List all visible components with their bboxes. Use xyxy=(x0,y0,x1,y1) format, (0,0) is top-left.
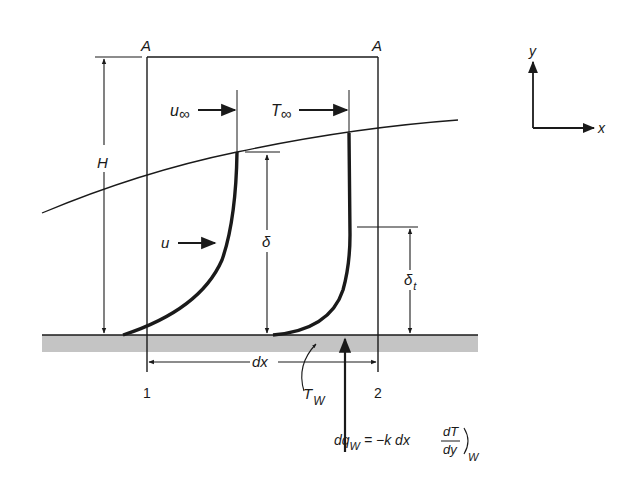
label-a-right: A xyxy=(371,37,382,54)
svg-text:dy: dy xyxy=(443,442,458,457)
label-h: H xyxy=(97,154,108,171)
label-delta: δ xyxy=(262,233,271,250)
coordinate-axes xyxy=(533,62,594,128)
label-station-1: 1 xyxy=(143,385,151,401)
svg-text:dT: dT xyxy=(443,424,459,439)
label-u-profile: u xyxy=(161,234,170,251)
label-u-inf: u∞ xyxy=(170,102,190,122)
label-station-2: 2 xyxy=(374,385,382,401)
height-dimension xyxy=(95,57,142,333)
label-t-wall: TW xyxy=(303,385,326,408)
label-dx: dx xyxy=(252,353,268,370)
label-delta-t: δt xyxy=(404,271,417,292)
label-axis-x: x xyxy=(597,120,606,136)
temperature-profile-curve xyxy=(273,133,350,335)
label-t-inf: T∞ xyxy=(271,102,292,122)
boundary-layer-diagram: A A H u∞ T∞ u δ δt dx 1 2 TW dqW= −k dx … xyxy=(0,0,644,488)
label-a-left: A xyxy=(140,37,151,54)
svg-text:W: W xyxy=(468,451,480,463)
label-axis-y: y xyxy=(528,43,537,59)
flat-plate xyxy=(42,335,478,352)
heat-flux-equation: dqW= −k dx dT dy W xyxy=(334,424,480,463)
